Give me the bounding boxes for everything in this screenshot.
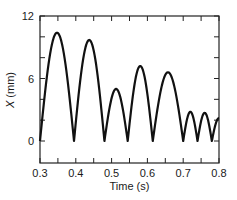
y-axis-units: (mm) xyxy=(4,72,16,101)
x-axis-label: Time (s) xyxy=(110,180,150,192)
x-tick-label: 0.6 xyxy=(140,167,155,179)
y-tick-label: 0 xyxy=(28,135,34,147)
x-tick-label: 0.8 xyxy=(211,167,226,179)
chart: 0.30.40.50.60.70.8 0612 Time (s) X (mm) xyxy=(0,0,237,200)
x-tick-label: 0.7 xyxy=(176,167,191,179)
x-tick-label: 0.5 xyxy=(104,167,119,179)
plot-frame xyxy=(40,16,219,163)
y-axis-ticks: 0612 xyxy=(22,10,219,147)
y-axis-label: X (mm) xyxy=(4,72,16,109)
y-tick-label: 12 xyxy=(22,10,34,22)
x-tick-label: 0.3 xyxy=(32,167,47,179)
data-line xyxy=(40,33,219,141)
x-tick-label: 0.4 xyxy=(68,167,83,179)
y-tick-label: 6 xyxy=(28,73,34,85)
